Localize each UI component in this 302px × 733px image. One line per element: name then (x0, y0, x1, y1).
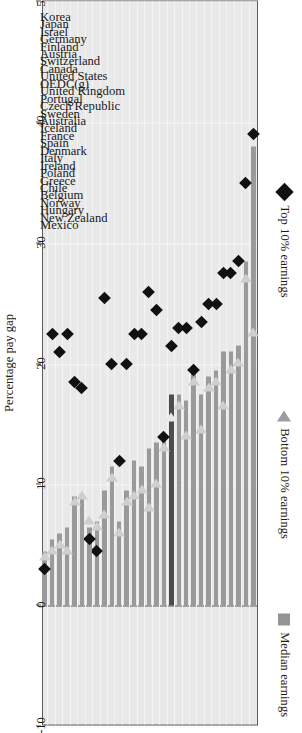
legend-entry: Median earnings (277, 613, 292, 717)
bar-median (95, 521, 99, 606)
axis-tick-label: -10 (34, 717, 49, 733)
bar-median (244, 261, 248, 605)
marker-bottom10 (98, 509, 110, 518)
marker-bottom10 (195, 424, 207, 433)
axis-tick-label: 50 (34, 0, 49, 6)
marker-bottom10 (188, 376, 200, 385)
bar-median (221, 351, 225, 605)
marker-bottom10 (150, 478, 162, 487)
legend-label: Median earnings (277, 632, 292, 717)
marker-bottom10 (173, 400, 185, 409)
chart-legend: Top 10% earningsBottom 10% earningsMedia… (260, 0, 302, 725)
bar-median (132, 460, 136, 605)
marker-bottom10 (240, 273, 252, 282)
axis-title-line2: Percentage pay gap (2, 0, 17, 725)
row-gridline (189, 1, 190, 724)
bar-median (236, 345, 240, 605)
marker-bottom10 (106, 472, 118, 481)
row-gridline (159, 1, 160, 724)
legend-entry: Bottom 10% earnings (277, 410, 292, 539)
row-gridline (174, 1, 175, 724)
row-gridline (219, 1, 220, 724)
marker-bottom10 (143, 502, 155, 511)
bar-median (229, 351, 233, 605)
marker-bottom10 (113, 527, 125, 536)
row-gridline (211, 1, 212, 724)
marker-bottom10 (121, 496, 133, 505)
marker-bottom10 (247, 327, 259, 336)
bar-median (110, 466, 114, 605)
marker-bottom10 (69, 496, 81, 505)
bar-median (206, 376, 210, 606)
row-gridline (137, 1, 138, 724)
gridline (43, 1, 257, 2)
marker-bottom10 (165, 412, 177, 421)
marker-bottom10 (203, 382, 215, 391)
gridline (43, 726, 257, 727)
axis-tick-label: 40 (34, 115, 49, 128)
row-gridline (204, 1, 205, 724)
bar-median (147, 448, 151, 605)
legend-label: Top 10% earnings (277, 205, 292, 297)
bar-median (80, 496, 84, 605)
axis-tick-label: 20 (34, 356, 49, 369)
legend-label: Bottom 10% earnings (277, 428, 292, 539)
gridline (43, 243, 257, 244)
row-gridline (196, 1, 197, 724)
triangle-icon (278, 410, 292, 421)
row-gridline (167, 1, 168, 724)
bar-median (191, 370, 195, 606)
diamond-icon (275, 182, 293, 200)
bar-median (177, 394, 181, 605)
row-gridline (249, 1, 250, 724)
legend-entry: Top 10% earnings (277, 185, 292, 297)
category-label: Mexico (40, 217, 78, 232)
bar-median (154, 442, 158, 605)
bar-median (214, 370, 218, 606)
row-gridline (152, 1, 153, 724)
bar-median (102, 490, 106, 605)
axis-title: between men and women Percentage pay gap (0, 0, 17, 725)
axis-tick-label: 30 (34, 235, 49, 248)
axis-tick-label: 0 (34, 601, 49, 607)
marker-bottom10 (83, 515, 95, 524)
marker-bottom10 (225, 364, 237, 373)
row-gridline (226, 1, 227, 724)
axis-tick-label: 10 (34, 477, 49, 490)
bar-median (124, 490, 128, 605)
value-axis: between men and women Percentage pay gap… (1, 0, 41, 725)
bar-median (251, 146, 255, 605)
bar-median (162, 436, 166, 605)
marker-bottom10 (217, 400, 229, 409)
bar-median (169, 394, 173, 605)
marker-bottom10 (158, 442, 170, 451)
square-icon (279, 613, 291, 625)
row-gridline (182, 1, 183, 724)
marker-bottom10 (180, 430, 192, 439)
row-gridline (144, 1, 145, 724)
